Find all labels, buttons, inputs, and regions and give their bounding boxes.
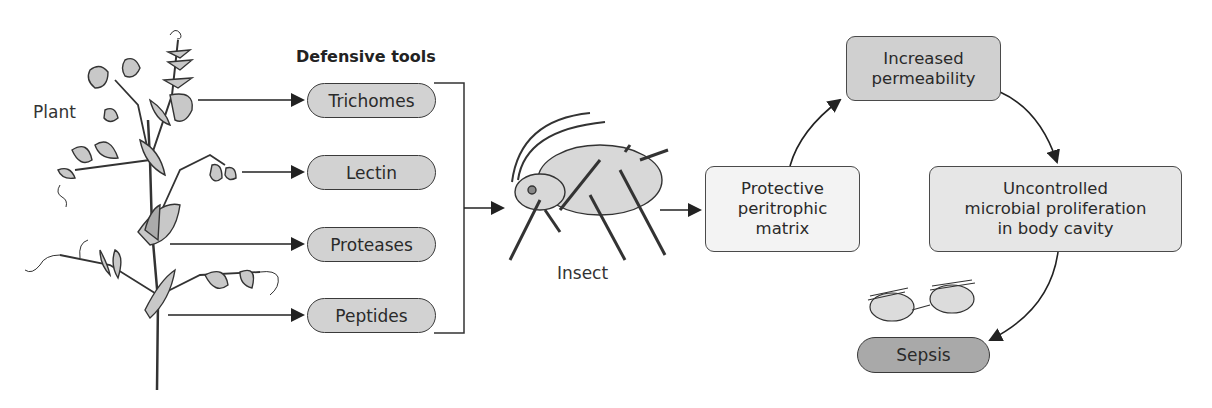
- defensive-tools-heading: Defensive tools: [296, 47, 436, 66]
- tool-pill-peptides: Peptides: [307, 298, 436, 333]
- sepsis-pill: Sepsis: [857, 337, 990, 373]
- plant-label: Plant: [33, 102, 76, 122]
- tool-pill-trichomes: Trichomes: [307, 83, 436, 118]
- tool-pill-proteases: Proteases: [307, 227, 436, 262]
- plant-icon: [25, 30, 278, 390]
- protective-matrix-box: Protective peritrophic matrix: [705, 166, 860, 252]
- insect-icon: [510, 113, 668, 260]
- microbial-proliferation-box: Uncontrolled microbial proliferation in …: [929, 166, 1182, 252]
- insect-label: Insect: [557, 263, 608, 283]
- tool-pill-lectin: Lectin: [307, 155, 436, 190]
- increased-permeability-box: Increased permeability: [846, 36, 1001, 101]
- dead-insects-icon: [868, 280, 975, 321]
